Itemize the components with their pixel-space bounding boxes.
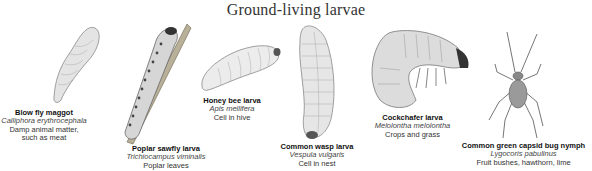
blow-fly-maggot-illustration — [25, 20, 105, 105]
caption-blow-fly-maggot: Blow fly maggot Calliphora erythrocephal… — [0, 109, 88, 143]
cockchafer-larva-illustration — [370, 28, 470, 113]
common-wasp-larva-illustration — [292, 22, 342, 142]
habitat-line2: such as meat — [0, 134, 88, 142]
caption-common-wasp-larva: Common wasp larva Vespula vulgaris Cell … — [272, 143, 362, 168]
honey-bee-larva-illustration — [198, 38, 283, 93]
capsid-bug-nymph-illustration — [485, 30, 555, 140]
caption-poplar-sawfly-larva: Poplar sawfly larva Trichiocampus vimina… — [121, 145, 211, 170]
habitat: Crops and grass — [370, 131, 455, 139]
figure-title: Ground-living larvae — [0, 1, 592, 19]
poplar-sawfly-larva-illustration — [115, 22, 195, 147]
habitat: Poplar leaves — [121, 162, 211, 170]
caption-cockchafer-larva: Cockchafer larva Melolontha melolontha C… — [370, 114, 455, 139]
caption-honey-bee-larva: Honey bee larva Apis mellifera Cell in h… — [192, 97, 272, 122]
habitat: Cell in nest — [272, 160, 362, 168]
caption-capsid-bug-nymph: Common green capsid bug nymph Lygocoris … — [455, 142, 592, 167]
habitat: Fruit bushes, hawthorn, lime — [455, 159, 592, 167]
habitat: Cell in hive — [192, 114, 272, 122]
